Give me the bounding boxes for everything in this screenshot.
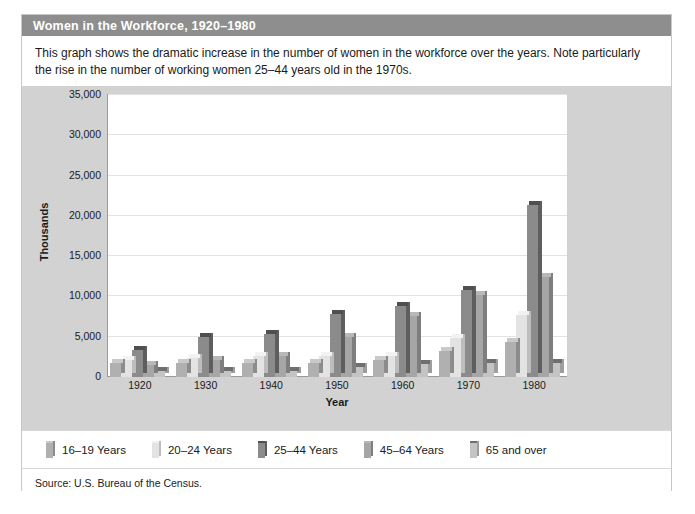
legend-swatch-icon xyxy=(258,441,267,458)
bar-group xyxy=(110,94,169,377)
bar-top xyxy=(397,302,408,306)
legend-swatch-side xyxy=(371,441,373,456)
bar-group xyxy=(373,94,432,377)
legend-swatch-side xyxy=(477,441,479,456)
legend-item[interactable]: 20–24 Years xyxy=(152,441,232,458)
legend-swatch-top xyxy=(258,441,265,443)
y-tick-label: 5,000 xyxy=(27,330,101,342)
source-text: Source: U.S. Bureau of the Census. xyxy=(35,477,202,489)
legend-swatch-top xyxy=(152,441,159,443)
bar xyxy=(308,363,319,377)
bar-face xyxy=(439,351,450,377)
bar-side xyxy=(209,333,213,373)
legend-label: 65 and over xyxy=(486,444,547,456)
x-axis-ticks: 1920193019401950196019701980 xyxy=(107,379,567,395)
legend-swatch-face xyxy=(364,443,371,458)
legend-swatch-icon xyxy=(470,441,479,458)
legend-swatch-top xyxy=(46,441,53,443)
bar-top xyxy=(112,359,123,363)
bar-top xyxy=(441,347,452,351)
legend-swatch-icon xyxy=(46,441,55,458)
legend-item[interactable]: 45–64 Years xyxy=(364,441,444,458)
bar-group xyxy=(242,94,301,377)
bar-top xyxy=(321,352,332,356)
bar-side xyxy=(549,273,553,373)
bar-face xyxy=(373,360,384,377)
bar-top xyxy=(518,311,529,315)
legend-item[interactable]: 25–44 Years xyxy=(258,441,338,458)
legend-swatch-face xyxy=(46,443,53,458)
bar-top xyxy=(507,338,518,342)
legend-label: 45–64 Years xyxy=(380,444,444,456)
bar-side xyxy=(406,302,410,373)
x-tick-label: 1940 xyxy=(241,379,301,391)
bar-side xyxy=(516,338,520,373)
legend-item[interactable]: 65 and over xyxy=(470,441,547,458)
bar-face xyxy=(308,363,319,377)
bars-layer xyxy=(107,94,567,377)
bar-top xyxy=(178,359,189,363)
bar-side xyxy=(461,334,465,373)
bar-top xyxy=(244,359,255,363)
legend-swatch-face xyxy=(470,443,477,458)
bar-group xyxy=(505,94,564,377)
bar-side xyxy=(341,310,345,373)
bar-top xyxy=(452,334,463,338)
y-tick-label: 30,000 xyxy=(27,128,101,140)
bar xyxy=(373,360,384,377)
legend-swatch-face xyxy=(152,443,159,458)
bar-top xyxy=(134,346,145,350)
chart-panel: 05,00010,00015,00020,00025,00030,00035,0… xyxy=(22,86,671,430)
bar-side xyxy=(143,346,147,373)
legend-swatch-top xyxy=(470,441,477,443)
figure-title-bar: Women in the Workforce, 1920–1980 xyxy=(22,15,671,36)
legend-label: 20–24 Years xyxy=(168,444,232,456)
x-tick-label: 1960 xyxy=(373,379,433,391)
legend-label: 16–19 Years xyxy=(62,444,126,456)
bar-top xyxy=(463,286,474,290)
bar-top xyxy=(529,201,540,205)
legend-swatch-icon xyxy=(364,441,373,458)
y-tick-label: 10,000 xyxy=(27,289,101,301)
legend-item[interactable]: 16–19 Years xyxy=(46,441,126,458)
bar-face xyxy=(505,342,516,377)
figure-container: Women in the Workforce, 1920–1980 This g… xyxy=(21,14,672,491)
y-axis-title: Thousands xyxy=(38,187,50,277)
y-axis-ticks: 05,00010,00015,00020,00025,00030,00035,0… xyxy=(22,86,101,430)
bar-top xyxy=(375,356,386,360)
chart-legend: 16–19 Years20–24 Years25–44 Years45–64 Y… xyxy=(22,430,671,468)
bar-face xyxy=(176,363,187,378)
x-tick-label: 1980 xyxy=(504,379,564,391)
legend-swatch-icon xyxy=(152,441,161,458)
bar-top xyxy=(310,359,321,363)
bar-group xyxy=(308,94,367,377)
x-axis-title: Year xyxy=(107,396,567,408)
bar-group xyxy=(439,94,498,377)
bar xyxy=(505,342,516,377)
bar-top xyxy=(255,352,266,356)
figure-title: Women in the Workforce, 1920–1980 xyxy=(33,19,256,33)
bar-side xyxy=(472,286,476,373)
legend-swatch-face xyxy=(258,443,265,458)
bar-top xyxy=(266,330,277,334)
y-tick-label: 25,000 xyxy=(27,169,101,181)
bar-side xyxy=(352,333,356,373)
bar xyxy=(176,363,187,378)
x-tick-label: 1950 xyxy=(307,379,367,391)
legend-swatch-side xyxy=(53,441,55,456)
bar-group xyxy=(176,94,235,377)
bar xyxy=(439,351,450,377)
legend-label: 25–44 Years xyxy=(274,444,338,456)
bar-top xyxy=(200,333,211,337)
y-tick-label: 0 xyxy=(27,370,101,382)
bar-face xyxy=(242,363,253,378)
legend-swatch-top xyxy=(364,441,371,443)
legend-swatch-side xyxy=(265,441,267,456)
legend-swatch-side xyxy=(159,441,161,456)
y-tick-label: 35,000 xyxy=(27,88,101,100)
x-tick-label: 1920 xyxy=(110,379,170,391)
bar-top xyxy=(332,310,343,314)
bar-side xyxy=(483,291,487,373)
x-tick-label: 1970 xyxy=(438,379,498,391)
bar-side xyxy=(417,312,421,373)
